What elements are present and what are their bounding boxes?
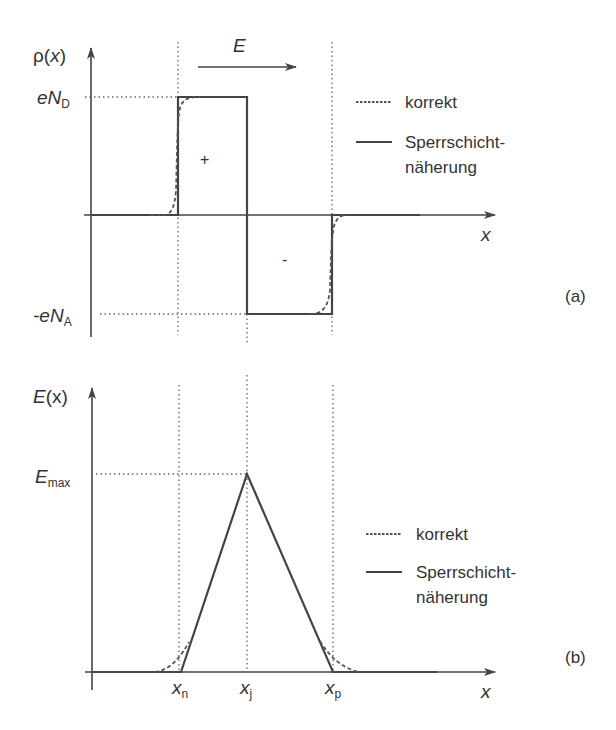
y-axis-label-b: E(x) [33,386,68,407]
legend-b-approx-label-2: näherung [416,588,488,607]
tick-label-xj: xj [239,677,252,701]
legend-a-approx-label-2: näherung [405,158,477,177]
negative-charge-sign: - [282,251,287,268]
panel-a-charge-density: E ρ(x) eND -eNA + - x (a) korrekt Sperrs… [33,35,586,345]
legend-a-correct-label: korrekt [405,93,457,112]
x-axis-label-a: x [480,224,492,245]
x-axis-label-b: x [480,681,492,702]
emax-label: Emax [35,466,70,490]
y-axis-label-a: ρ(x) [33,45,66,66]
legend-a: korrekt Sperrschicht- näherung [356,93,505,177]
panel-label-b: (b) [565,648,586,667]
level-eND-label: eND [37,87,70,111]
correct-curve-a [150,97,200,215]
tick-label-xn: xn [171,677,188,701]
tick-label-xp: xp [324,677,342,701]
field-arrow-label: E [233,35,246,56]
pn-junction-figure: E ρ(x) eND -eNA + - x (a) korrekt Sperrs… [0,0,616,730]
legend-b-approx-label-1: Sperrschicht- [416,563,516,582]
correct-curve-a-right [310,215,348,314]
panel-label-a: (a) [565,287,586,306]
correct-curve-b-left [155,642,189,672]
legend-b: korrekt Sperrschicht- näherung [366,525,516,607]
legend-a-approx-label-1: Sperrschicht- [405,133,505,152]
depletion-approx-curve-a [91,97,420,314]
level-eNA-label: -eNA [33,305,72,329]
panel-b-electric-field: E(x) Emax xn xj xp x (b) korrekt Sperrsc… [33,375,586,702]
positive-charge-sign: + [200,151,209,168]
legend-b-correct-label: korrekt [416,525,468,544]
